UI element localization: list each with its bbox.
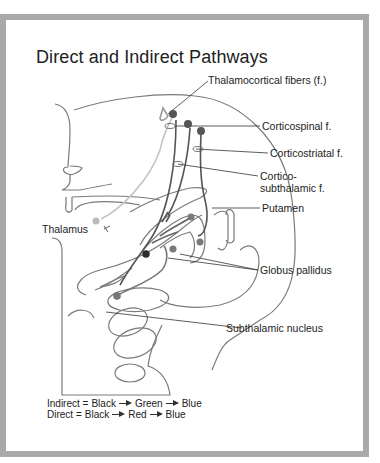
neuron-gpi (142, 250, 150, 258)
thalamocortical-fiber (101, 112, 176, 219)
pathways (101, 108, 207, 294)
putamen-right-lobe (214, 211, 228, 250)
label-corticosubthalamic-line1: Cortico- (260, 170, 297, 182)
corticostriatal-fiber (168, 128, 190, 215)
leader-thalamocortical (168, 81, 208, 114)
label-subthalamic-nucleus: Subthalamic nucleus (226, 322, 323, 334)
corpus-callosum-line (62, 174, 112, 190)
leader-corticosubthalamic (178, 164, 258, 176)
leader-subthalamic-nucleus (106, 312, 242, 328)
loop-corticospinal (165, 124, 175, 129)
legend-indirect-step-1: Black (91, 398, 115, 409)
legend-indirect-step-3: Blue (182, 398, 202, 409)
legend-indirect: Indirect = Black Green Blue (47, 398, 202, 409)
arrow-right-icon (119, 400, 132, 407)
substantia-ellipse (115, 364, 145, 382)
neuron-cortical-1 (169, 110, 177, 118)
arrow-right-icon (166, 400, 179, 407)
neuron-putamen-1 (188, 214, 195, 221)
hippocampus-arc (68, 310, 94, 318)
leader-globus-pallidus (168, 254, 258, 270)
legend-indirect-step-2: Green (135, 398, 163, 409)
legend-direct-step-3: Blue (166, 409, 186, 420)
label-thalamocortical-fibers: Thalamocortical fibers (f.) (208, 74, 326, 86)
label-putamen: Putamen (262, 202, 304, 214)
neuron-thalamus (93, 218, 100, 225)
label-thalamus: Thalamus (42, 223, 88, 235)
lentiform-lower (160, 246, 259, 307)
arrow-right-icon (150, 411, 163, 418)
legend-direct-step-2: Red (128, 409, 146, 420)
capsule-slit (100, 276, 124, 287)
label-corticospinal: Corticospinal f. (262, 120, 331, 132)
legend-direct: Direct = Black Red Blue (47, 409, 202, 420)
midline-structure (55, 104, 82, 175)
label-globus-pallidus: Globus pallidus (260, 264, 332, 276)
subthalamic-ellipse-2 (110, 322, 161, 363)
thalamocortical-terminal (160, 108, 168, 120)
ventricle-small (66, 197, 72, 212)
neuron-subthalamic (113, 292, 121, 300)
legend-direct-step-1: Black (85, 409, 109, 420)
neuron-cortical-3 (197, 127, 205, 135)
arrow-right-icon (112, 411, 125, 418)
brain-outline (52, 95, 295, 395)
label-corticosubthalamic-line2: subthalamic f. (260, 182, 325, 194)
legend-direct-name: Direct = (47, 409, 82, 420)
legend-indirect-name: Indirect = (47, 398, 88, 409)
neuron-cortical-2 (184, 120, 192, 128)
thalamus-synapse (104, 226, 110, 232)
leader-corticostriatal (196, 149, 268, 153)
subthalamic-ellipse-1 (105, 303, 151, 341)
thalamus-top (75, 202, 140, 210)
label-corticostriatal: Corticostriatal f. (270, 147, 343, 159)
upper-thalamus-line (72, 196, 160, 200)
neurons (93, 110, 206, 300)
neuron-putamen-2 (197, 239, 204, 246)
neuron-globus-pallidus (170, 246, 177, 253)
pathway-legend: Indirect = Black Green Blue Direct = Bla… (47, 398, 202, 420)
brainstem-outline (52, 238, 170, 395)
